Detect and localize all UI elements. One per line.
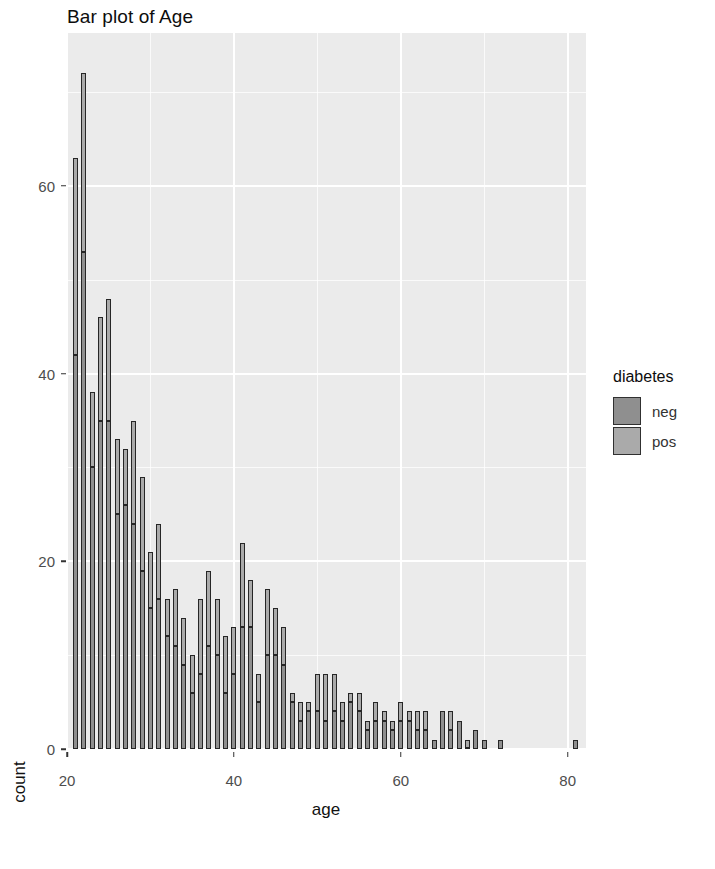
x-tick-mark (567, 752, 569, 757)
bar (273, 608, 278, 749)
bar-segment-pos (357, 693, 362, 712)
legend-item-pos[interactable]: pos (613, 426, 677, 456)
bar (465, 740, 470, 749)
bar-segment-pos (373, 702, 378, 721)
page-title: Bar plot of Age (67, 6, 193, 28)
bar-segment-neg (498, 740, 503, 749)
bar-segment-pos (423, 711, 428, 730)
legend-label: neg (652, 403, 677, 420)
bar-segment-pos (298, 702, 303, 721)
bar-segment-neg (298, 721, 303, 749)
bar-segment-neg (382, 721, 387, 749)
bar-segment-neg (90, 467, 95, 749)
bar-segment-neg (473, 730, 478, 749)
bar-segment-pos (140, 477, 145, 571)
y-tick-mark (61, 748, 66, 750)
y-tick-label: 0 (47, 741, 55, 758)
bar (190, 655, 195, 749)
y-tick-mark (61, 185, 66, 187)
bar (165, 599, 170, 749)
x-tick-label: 80 (559, 772, 576, 789)
bar-segment-neg (573, 740, 578, 749)
bar-segment-neg (432, 740, 437, 749)
bar-segment-pos (448, 711, 453, 730)
gridline-x-major (67, 33, 68, 749)
bar-segment-neg (181, 665, 186, 749)
bar (290, 693, 295, 749)
bar (423, 711, 428, 749)
bar-segment-pos (415, 711, 420, 730)
bar (248, 580, 253, 749)
bar-segment-pos (240, 543, 245, 627)
bar (123, 449, 128, 749)
bar-segment-pos (340, 702, 345, 721)
bar-segment-neg (223, 693, 228, 749)
bar-segment-pos (273, 608, 278, 655)
bar (365, 721, 370, 749)
bar-segment-pos (148, 552, 153, 608)
bar-segment-pos (365, 721, 370, 730)
y-tick-label: 60 (38, 177, 55, 194)
bar (223, 636, 228, 749)
bar (482, 740, 487, 749)
bar-segment-pos (98, 317, 103, 420)
bar-segment-neg (415, 730, 420, 749)
legend-label: pos (652, 433, 676, 450)
bar-segment-pos (165, 599, 170, 637)
bar (298, 702, 303, 749)
bar (398, 702, 403, 749)
bar-segment-neg (173, 646, 178, 749)
bar-segment-pos (223, 636, 228, 692)
bar-segment-neg (348, 702, 353, 749)
gridline-x-minor (317, 33, 318, 749)
legend-item-neg[interactable]: neg (613, 396, 677, 426)
x-tick-label: 40 (226, 772, 243, 789)
bar-segment-neg (165, 636, 170, 749)
x-tick-mark (400, 752, 402, 757)
gridline-y-minor (67, 467, 586, 468)
bar-segment-neg (398, 721, 403, 749)
bar-segment-neg (440, 711, 445, 749)
bar (240, 543, 245, 749)
bar-segment-pos (248, 580, 253, 627)
bar-segment-neg (106, 421, 111, 749)
gridline-y-minor (67, 92, 586, 93)
bar (206, 571, 211, 749)
bar (432, 740, 437, 749)
y-tick-label: 40 (38, 365, 55, 382)
y-axis-label: count (10, 761, 30, 803)
bar (382, 711, 387, 749)
bar (448, 711, 453, 749)
bar-segment-neg (73, 355, 78, 749)
bar-segment-neg (407, 721, 412, 749)
bar-segment-neg (273, 655, 278, 749)
bar (231, 627, 236, 749)
bar-segment-neg (256, 702, 261, 749)
bar (181, 618, 186, 749)
bar (315, 674, 320, 749)
bar (256, 674, 261, 749)
bar (281, 627, 286, 749)
x-tick-label: 60 (392, 772, 409, 789)
chart-figure: Bar plot of Age 020406020406080 count ag… (0, 0, 715, 869)
legend-items: negpos (613, 396, 677, 456)
legend: diabetes negpos (613, 368, 677, 456)
gridline-y-minor (67, 655, 586, 656)
bar-segment-pos (256, 674, 261, 702)
gridline-x-major (567, 33, 569, 749)
bar (98, 317, 103, 749)
plot-panel (67, 33, 586, 749)
bar-segment-pos (81, 73, 86, 251)
x-axis-label: age (312, 800, 340, 820)
bar-segment-neg (365, 730, 370, 749)
bar (332, 674, 337, 749)
bar-segment-pos (190, 655, 195, 693)
gridline-x-major (400, 33, 402, 749)
bar-segment-neg (206, 646, 211, 749)
bar-segment-neg (115, 514, 120, 749)
bar (440, 711, 445, 749)
x-tick-mark (66, 752, 68, 757)
bar-segment-pos (173, 589, 178, 645)
bar (498, 740, 503, 749)
gridline-y-major (67, 560, 586, 562)
